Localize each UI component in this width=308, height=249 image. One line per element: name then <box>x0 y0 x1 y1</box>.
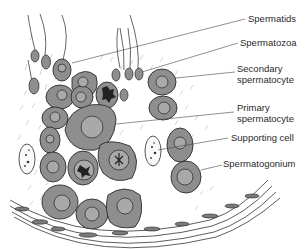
label-primary-line1: Primary <box>237 102 294 113</box>
label-spermatogonium: Spermatogonium <box>223 158 295 169</box>
label-secondary-spermatocyte: Secondary spermatocyte <box>237 63 294 85</box>
label-secondary-line2: spermatocyte <box>237 74 294 85</box>
label-primary-spermatocyte: Primary spermatocyte <box>237 102 294 124</box>
label-secondary-line1: Secondary <box>237 63 294 74</box>
label-primary-line2: spermatocyte <box>237 113 294 124</box>
label-spermatozoa: Spermatozoa <box>240 37 297 48</box>
label-supporting-cell: Supporting cell <box>231 132 294 143</box>
label-spermatids: Spermatids <box>248 13 296 24</box>
